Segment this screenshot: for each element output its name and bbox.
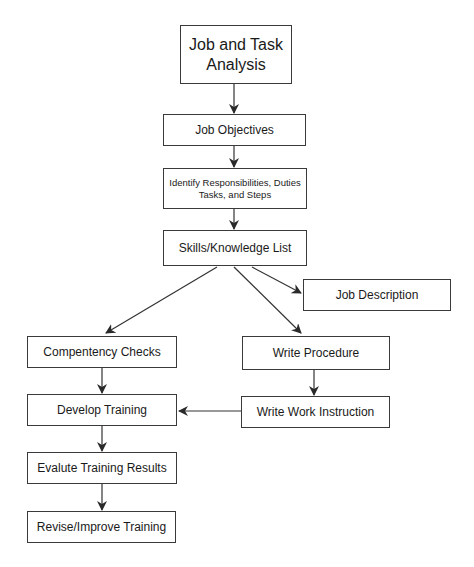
node-job-objectives: Job Objectives [163,114,306,146]
node-label: Write Work Instruction [257,405,375,420]
node-label: Job Objectives [195,123,274,138]
node-identify-responsibilities: Identify Responsibilities, Duties Tasks,… [163,168,307,209]
node-write-procedure: Write Procedure [242,336,390,370]
node-label-line2: Analysis [189,55,283,75]
node-job-task-analysis: Job and Task Analysis [180,25,292,84]
node-label-line2: Tasks, and Steps [169,189,300,201]
node-label: Write Procedure [273,346,359,361]
node-label: Revise/Improve Training [37,520,166,535]
node-job-description: Job Description [303,279,451,311]
node-label-line1: Identify Responsibilities, Duties [169,177,300,189]
node-label: Compentency Checks [43,345,160,360]
node-develop-training: Develop Training [27,394,177,426]
node-write-work-instruction: Write Work Instruction [241,396,390,428]
node-skills-knowledge: Skills/Knowledge List [163,230,307,266]
node-label: Job Description [336,288,419,303]
arrow-skills-to-procedure [234,267,301,333]
node-label: Evalute Training Results [37,461,166,476]
node-label-line1: Job and Task [189,35,283,55]
node-label: Develop Training [57,403,147,418]
node-evaluate-training: Evalute Training Results [27,452,177,484]
arrow-skills-to-job-description [252,267,301,293]
node-competency-checks: Compentency Checks [27,336,177,368]
node-revise-training: Revise/Improve Training [27,511,176,543]
node-label: Skills/Knowledge List [179,241,292,256]
arrow-skills-to-competency [106,267,217,333]
